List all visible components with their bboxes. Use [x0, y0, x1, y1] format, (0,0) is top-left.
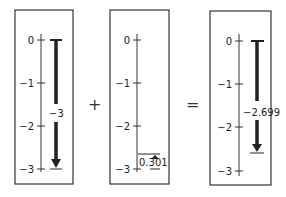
tick-label-0: 0 [28, 35, 34, 46]
tick-label-1: −1 [19, 78, 34, 89]
log-addition-diagram: 0 −1 −2 −3 −3 + 0 −1 −2 −3 [0, 0, 286, 197]
tick-label-3: −3 [115, 164, 130, 175]
arrow-icon [50, 40, 62, 169]
tick-label-3: −3 [217, 166, 232, 177]
panel-right: 0 −1 −2 −3 −2.699 [210, 11, 280, 185]
tick-label-0: 0 [124, 35, 130, 46]
equals-operator: = [186, 95, 199, 114]
arrow-icon [250, 41, 264, 153]
plus-operator: + [88, 95, 101, 114]
panel-middle: 0 −1 −2 −3 0.301 [110, 10, 169, 184]
tick-label-3: −3 [19, 164, 34, 175]
panel-frame [15, 10, 73, 184]
arrow-label: −2.699 [243, 107, 280, 118]
tick-label-0: 0 [226, 36, 232, 47]
tick-label-1: −1 [217, 79, 232, 90]
panel-left: 0 −1 −2 −3 −3 [15, 10, 73, 184]
tick-label-2: −2 [19, 121, 34, 132]
tick-label-2: −2 [217, 122, 232, 133]
tick-label-2: −2 [115, 121, 130, 132]
panel-frame [210, 11, 271, 185]
arrow-label: −3 [49, 108, 64, 119]
arrow-label: 0.301 [139, 157, 168, 168]
tick-label-1: −1 [115, 78, 130, 89]
